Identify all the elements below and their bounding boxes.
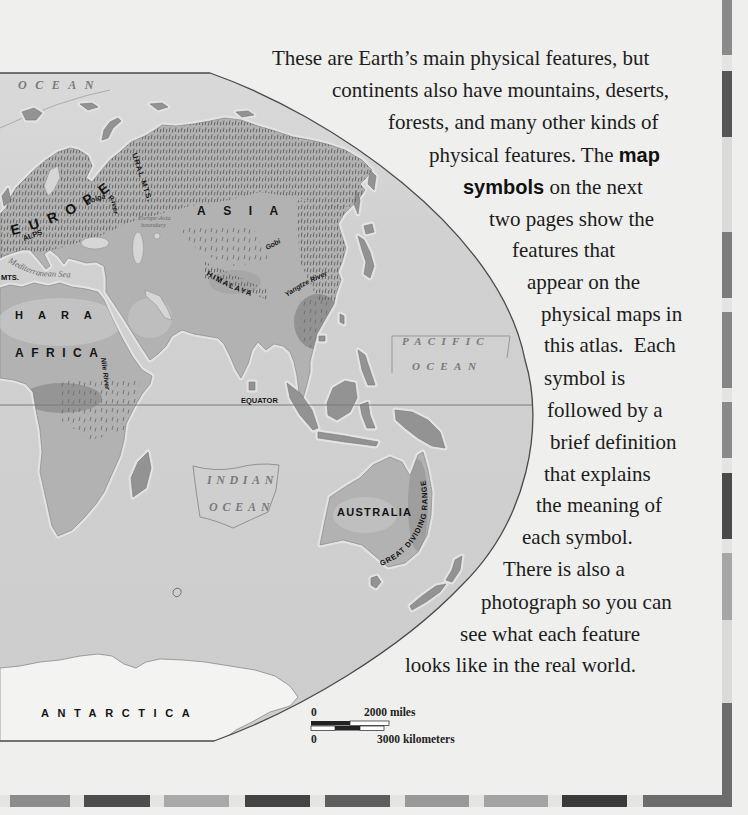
right-bar-segment bbox=[722, 553, 732, 620]
aral-sea bbox=[154, 233, 160, 239]
bottom-bar-segment bbox=[10, 795, 70, 807]
scale-miles-light-segment bbox=[350, 721, 389, 726]
body-line: each symbol. bbox=[522, 527, 633, 548]
bottom-bar-segment bbox=[405, 795, 469, 807]
right-bar-segment bbox=[722, 137, 732, 232]
label-indian-ocean-2: OCEAN bbox=[209, 500, 274, 514]
label-pacific-ocean-2: OCEAN bbox=[412, 360, 482, 372]
right-color-bar bbox=[722, 0, 732, 807]
label-europe-asia-boundary-2: boundary bbox=[141, 221, 166, 228]
body-line: symbol is bbox=[544, 368, 625, 389]
label-sahara: HARA bbox=[15, 309, 107, 321]
keyword-symbols: symbols bbox=[463, 176, 544, 198]
body-line: looks like in the real world. bbox=[405, 655, 636, 676]
bottom-bar-segment bbox=[484, 795, 548, 807]
body-line: symbols on the next bbox=[463, 177, 643, 198]
body-line-text: physical features. The bbox=[429, 143, 619, 167]
label-equator: EQUATOR bbox=[241, 396, 278, 405]
scale-bar: 0 2000 miles 0 3000 kilometers bbox=[311, 706, 455, 745]
body-line: followed by a bbox=[547, 400, 662, 421]
body-line: the meaning of bbox=[536, 495, 662, 516]
scale-miles-label: 2000 miles bbox=[364, 706, 416, 718]
label-asia: ASIA bbox=[197, 204, 296, 218]
body-line: appear on the bbox=[527, 272, 640, 293]
keyword-map: map bbox=[619, 144, 660, 166]
scale-km-light-segment-1 bbox=[311, 726, 335, 731]
label-africa: AFRICA bbox=[15, 346, 105, 360]
scale-km-light-segment-2 bbox=[360, 726, 384, 731]
bottom-bar-segment bbox=[245, 795, 310, 807]
body-line: physical maps in bbox=[541, 304, 682, 325]
body-line: There is also a bbox=[503, 559, 625, 580]
body-line: that explains bbox=[544, 464, 651, 485]
body-line: two pages show the bbox=[489, 209, 654, 230]
right-bar-segment bbox=[722, 71, 732, 137]
scale-km-dark-segment bbox=[335, 726, 360, 731]
body-line: features that bbox=[512, 240, 615, 261]
body-line: continents also have mountains, deserts, bbox=[332, 80, 669, 101]
scale-km-zero: 0 bbox=[311, 733, 317, 745]
scale-miles-dark-segment bbox=[311, 721, 350, 726]
right-bar-segment bbox=[722, 0, 732, 55]
right-bar-segment bbox=[722, 703, 732, 807]
label-pacific-ocean-1: PACIFIC bbox=[402, 335, 490, 347]
right-bar-segment bbox=[722, 620, 732, 703]
label-arctic-ocean: OCEAN bbox=[18, 78, 102, 92]
body-line: forests, and many other kinds of bbox=[388, 112, 659, 133]
right-bar-segment bbox=[722, 312, 732, 388]
label-australia: AUSTRALIA bbox=[337, 506, 412, 518]
scale-miles-zero: 0 bbox=[311, 706, 317, 718]
right-bar-segment bbox=[722, 232, 732, 298]
body-line-text: on the next bbox=[544, 175, 643, 199]
body-line: photograph so you can bbox=[481, 592, 672, 613]
bottom-bar-segment bbox=[643, 795, 732, 807]
bottom-color-bar bbox=[0, 795, 732, 807]
bottom-bar-segment bbox=[325, 795, 390, 807]
label-antarctica: ANTARCTICA bbox=[41, 707, 198, 719]
body-line: brief definition bbox=[550, 432, 677, 453]
body-line: physical features. The map bbox=[429, 145, 660, 166]
caspian-sea bbox=[133, 232, 144, 264]
body-line: These are Earth’s main physical features… bbox=[272, 48, 649, 69]
atlas-page: OCEAN EUROPE Volga River URAL MTS. Europ… bbox=[0, 0, 748, 815]
scale-km-label: 3000 kilometers bbox=[377, 733, 455, 745]
body-line: see what each feature bbox=[460, 624, 640, 645]
black-sea bbox=[81, 237, 109, 249]
body-line: this atlas. Each bbox=[544, 335, 676, 356]
bottom-bar-segment bbox=[84, 795, 150, 807]
bottom-bar-segment bbox=[562, 795, 627, 807]
bottom-bar-segment bbox=[164, 795, 229, 807]
label-atlas-mts: MTS. bbox=[1, 273, 19, 282]
label-indian-ocean-1: INDIAN bbox=[206, 473, 278, 487]
right-bar-segment bbox=[722, 402, 732, 458]
right-bar-segment bbox=[722, 473, 732, 539]
